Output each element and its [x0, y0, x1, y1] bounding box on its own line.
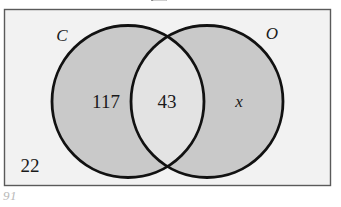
region-value-right-only: x [234, 92, 243, 111]
set-label-o: O [266, 24, 278, 43]
figure-caption: 91 [3, 189, 17, 202]
set-label-c: C [56, 26, 68, 45]
region-value-left-only: 117 [92, 91, 120, 112]
region-value-intersection: 43 [158, 91, 177, 112]
region-value-outside: 22 [21, 155, 40, 176]
venn-diagram-canvas: C O 117 43 x 22 [0, 0, 341, 207]
venn-diagram-figure: C O 117 43 x 22 91 [0, 0, 341, 207]
